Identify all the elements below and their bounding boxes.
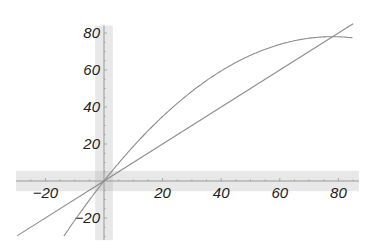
y-tick-label: −20 — [75, 209, 101, 226]
chart-plot: −2020406080−2020406080 — [0, 0, 373, 248]
x-tick-label: −20 — [33, 184, 59, 201]
x-tick-label: 40 — [213, 184, 230, 201]
x-tick-label: 60 — [271, 184, 288, 201]
y-tick-label: 40 — [83, 98, 100, 115]
y-tick-label: 20 — [82, 135, 100, 152]
data-series — [17, 24, 353, 236]
y-tick-label: 80 — [83, 24, 100, 41]
axis-ticks — [31, 33, 353, 237]
axes — [16, 26, 359, 241]
x-tick-label: 20 — [153, 184, 171, 201]
y-tick-label: 60 — [83, 61, 100, 78]
highlight-bands — [16, 26, 359, 241]
x-tick-label: 80 — [330, 184, 347, 201]
line-series — [17, 24, 353, 236]
